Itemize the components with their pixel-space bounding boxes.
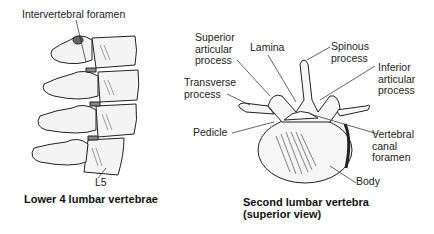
vertebral-body-l5	[84, 138, 124, 175]
caption-superior-view: (superior view)	[243, 208, 321, 221]
vertebral-body-1	[92, 36, 137, 68]
vertebral-body-3	[96, 104, 137, 137]
label-l5: L5	[95, 177, 107, 189]
label-intervertebral-foramen: Intervertebral foramen	[22, 9, 125, 21]
caption-lower-lumbar-vertebrae: Lower 4 lumbar vertebrae	[24, 193, 158, 206]
label-superior-articular-process: Superior articular process	[195, 32, 235, 67]
label-transverse-process: Transverse process	[184, 77, 236, 100]
label-spinous-process: Spinous process	[331, 41, 369, 64]
label-pedicle: Pedicle	[193, 127, 227, 139]
label-vertebral-canal-foramen: Vertebral canal foramen	[372, 129, 414, 164]
label-inferior-articular-process: Inferior articular process	[378, 62, 415, 97]
transverse-process-right	[336, 105, 370, 116]
label-lamina: Lamina	[250, 42, 284, 54]
vertebral-body-2	[98, 70, 139, 102]
vertebral-body-superior	[258, 117, 352, 183]
caption-second-lumbar-vertebra: Second lumbar vertebra	[243, 196, 369, 209]
label-body: Body	[356, 176, 380, 188]
